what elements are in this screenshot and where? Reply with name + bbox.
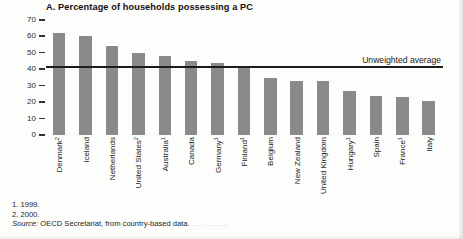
y-axis-tick-mark [39,101,45,103]
x-axis-label-slot: France1 [389,137,415,199]
chart-title: A. Percentage of households possessing a… [46,2,253,12]
x-axis-label: Belgium [266,137,275,166]
x-axis-label: Finland1 [239,137,250,166]
bar-slot [231,20,257,135]
source-text: OECD Secretariat, from country-based dat… [40,219,189,228]
bar-slot [415,20,441,135]
bar[interactable] [422,101,435,136]
y-axis-tick-label: 0 [32,130,36,140]
bar-slot [310,20,336,135]
x-axis-label-slot: Iceland [72,137,98,199]
y-axis-tick-mark [39,118,45,120]
bar[interactable] [79,36,92,135]
x-axis-label-slot: Belgium [257,137,283,199]
y-axis-tick-mark [39,19,45,21]
x-axis-label-slot: United Kingdom [310,137,336,199]
x-axis-label: United Kingdom [319,137,328,194]
x-axis-label: Spain [371,137,380,157]
bar-slot [204,20,230,135]
x-axis-label: Netherlands [107,137,116,180]
x-axis-label: Germany1 [212,137,223,173]
scan-edge-bottom [0,236,463,239]
x-axis-label: New Zealand [292,137,301,184]
footnote-marker: 2 [133,137,139,140]
y-axis-tick-label: 40 [27,64,36,74]
y-axis-tick-mark [39,52,45,54]
x-axis-label: United States2 [133,137,144,188]
y-axis-tick-mark [39,35,45,37]
bar[interactable] [396,97,409,135]
source-line: Source: OECD Secretariat, from country-b… [12,219,452,229]
x-axis-category-labels: Denmark2IcelandNetherlandsUnited States2… [46,137,443,199]
footnote-marker: 1 [239,137,245,140]
bar-series [46,20,443,135]
y-axis-tick-mark [39,134,45,136]
x-axis-label: Australia1 [159,137,170,171]
bar-slot [178,20,204,135]
source-label: Source: [12,219,38,228]
bar-slot [389,20,415,135]
y-axis-tick-label: 60 [27,31,36,41]
bar-slot [125,20,151,135]
bar-slot [257,20,283,135]
footnote-marker: 1 [344,137,350,140]
bar[interactable] [238,66,251,135]
footnote-2: 2. 2000. [12,210,452,220]
x-axis-label-slot: New Zealand [284,137,310,199]
footnote-marker: 1 [159,137,165,140]
bar[interactable] [53,33,66,135]
y-axis-tick-mark [39,68,45,70]
bar[interactable] [343,91,356,135]
bar[interactable] [211,63,224,135]
x-axis-label: Hungary1 [344,137,355,170]
x-axis-label: Iceland [81,137,90,163]
bar[interactable] [317,81,330,135]
x-axis-label-slot: Hungary1 [336,137,362,199]
y-axis: 706050403020100 [0,20,46,135]
x-axis-label-slot: Germany1 [204,137,230,199]
y-axis-tick-label: 30 [27,81,36,91]
bar-slot [152,20,178,135]
y-axis-tick-label: 10 [27,114,36,124]
footnote-marker: 1 [397,137,403,140]
plot-area: Unweighted average [46,20,443,135]
x-axis-label-slot: Spain [363,137,389,199]
x-axis-label: Canada [187,137,196,165]
x-axis-label-slot: Italy [416,137,442,199]
bar[interactable] [264,78,277,136]
bar[interactable] [159,56,172,135]
x-axis-label-slot: Australia1 [152,137,178,199]
y-axis-tick-label: 70 [27,15,36,25]
x-axis-label-slot: Finland1 [231,137,257,199]
x-axis-label-slot: Denmark2 [46,137,72,199]
x-axis-label: Italy [424,137,433,152]
x-axis-label-slot: Canada [178,137,204,199]
figure-panel: A. Percentage of households possessing a… [0,0,463,239]
bar-slot [72,20,98,135]
bar-slot [46,20,72,135]
bar[interactable] [106,46,119,135]
footnote-marker: 1 [212,137,218,140]
y-axis-tick-label: 20 [27,97,36,107]
y-axis-tick-mark [39,85,45,87]
x-axis-label: Denmark2 [54,137,65,173]
x-axis-label: France1 [397,137,408,165]
bar-slot [99,20,125,135]
x-axis-label-slot: United States2 [125,137,151,199]
dotted-rule: ............ [192,219,229,229]
footnotes-block: 1. 1999. 2. 2000. Source: OECD Secretari… [12,200,452,229]
bar[interactable] [370,96,383,135]
bar-slot [336,20,362,135]
bar[interactable] [185,61,198,135]
unweighted-average-line [46,66,443,68]
x-axis-label-slot: Netherlands [99,137,125,199]
bar-slot [363,20,389,135]
bar[interactable] [290,81,303,135]
scan-edge-right [459,0,463,239]
bar-slot [284,20,310,135]
y-axis-tick-label: 50 [27,48,36,58]
unweighted-average-label: Unweighted average [362,55,441,65]
footnote-marker: 2 [54,137,60,140]
footnote-1: 1. 1999. [12,200,452,210]
